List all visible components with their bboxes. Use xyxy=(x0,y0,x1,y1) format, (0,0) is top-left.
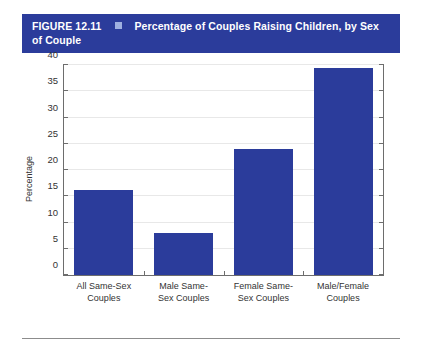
x-axis-tick xyxy=(224,271,225,275)
y-axis-tick-label: 10 xyxy=(47,206,58,217)
y-axis-tick xyxy=(379,169,383,170)
y-axis-tick xyxy=(379,248,383,249)
y-axis-title-text: Percentage xyxy=(24,188,34,202)
y-axis-tick-label: 30 xyxy=(47,101,58,112)
y-axis-tick xyxy=(379,64,383,65)
y-axis-tick xyxy=(64,117,68,118)
y-axis-tick-label: 35 xyxy=(47,75,58,86)
y-axis-tick xyxy=(64,195,68,196)
y-axis-tick xyxy=(379,90,383,91)
y-axis-tick xyxy=(379,195,383,196)
y-axis-tick-label: 20 xyxy=(47,154,58,165)
figure-caption-banner: FIGURE 12.11Percentage of Couples Raisin… xyxy=(22,14,400,53)
x-axis-tick-label: Male/Female Couples xyxy=(317,281,369,304)
x-axis-tick-label: Male Same- Sex Couples xyxy=(158,281,209,304)
y-axis-tick xyxy=(379,143,383,144)
y-axis-tick xyxy=(64,222,68,223)
figure-number-label: FIGURE 12.11 xyxy=(32,20,101,32)
y-axis-tick-label: 15 xyxy=(47,180,58,191)
y-axis-title: Percentage xyxy=(20,122,30,136)
plot-frame: 0510152025303540All Same-Sex CouplesMale… xyxy=(63,64,384,276)
y-axis-tick-label: 5 xyxy=(53,232,58,243)
x-axis-tick-label: All Same-Sex Couples xyxy=(77,281,132,304)
square-bullet-icon xyxy=(115,22,122,29)
y-axis-tick xyxy=(379,274,383,275)
y-axis-tick xyxy=(64,274,68,275)
bar xyxy=(314,68,373,275)
plot-inner: 0510152025303540All Same-Sex CouplesMale… xyxy=(64,65,383,275)
y-axis-tick xyxy=(64,90,68,91)
bar xyxy=(234,149,293,275)
x-axis-tick-label: Female Same- Sex Couples xyxy=(234,281,293,304)
y-axis-tick-label: 0 xyxy=(53,259,58,270)
x-axis-tick xyxy=(144,271,145,275)
y-axis-tick xyxy=(379,117,383,118)
bar xyxy=(154,233,213,275)
y-axis-tick-label: 25 xyxy=(47,127,58,138)
bar-chart: Percentage 0510152025303540All Same-Sex … xyxy=(22,58,400,320)
y-axis-tick xyxy=(64,64,68,65)
y-axis-tick xyxy=(379,222,383,223)
y-axis-tick xyxy=(64,169,68,170)
y-axis-tick xyxy=(64,143,68,144)
x-axis-tick xyxy=(303,271,304,275)
figure-bottom-rule xyxy=(22,338,400,339)
bar xyxy=(74,190,133,275)
y-axis-tick xyxy=(64,248,68,249)
y-axis-tick-label: 40 xyxy=(47,49,58,60)
gridline xyxy=(64,64,383,65)
